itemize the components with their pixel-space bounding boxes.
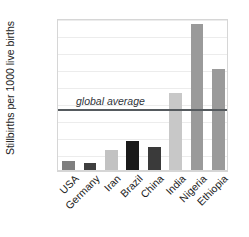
x-axis-tick-china: China xyxy=(139,173,166,200)
global-average-line xyxy=(58,109,227,111)
plot-area: global average xyxy=(57,19,228,172)
y-axis-tick-labels xyxy=(22,12,54,172)
bar-ethiopia xyxy=(212,69,225,171)
bar-chart-figure: Stillbirths per 1000 live births global … xyxy=(0,0,249,237)
y-axis-title: Stillbirths per 1000 live births xyxy=(0,0,20,175)
y-axis-title-text: Stillbirths per 1000 live births xyxy=(4,20,16,154)
global-average-label: global average xyxy=(76,95,145,107)
x-axis-tick-labels: USAGermanyIranBrazilChinaIndiaNigeriaEth… xyxy=(57,173,228,237)
bar-china xyxy=(148,147,161,171)
bar-brazil xyxy=(126,141,139,171)
bar-india xyxy=(169,93,182,171)
bar-nigeria xyxy=(191,24,204,171)
bar-iran xyxy=(105,150,118,171)
x-axis-baseline xyxy=(58,170,227,171)
